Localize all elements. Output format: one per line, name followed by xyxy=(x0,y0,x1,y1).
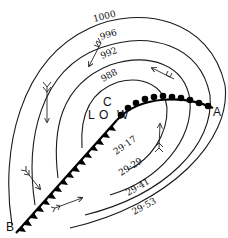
label-988: 988 xyxy=(99,67,119,84)
low-letter-O: O xyxy=(99,108,108,122)
label-29-41: 29·41 xyxy=(124,176,151,198)
point-A-label: A xyxy=(213,105,221,119)
warm-front xyxy=(117,93,213,120)
wind-arrow-right-upper xyxy=(152,68,174,79)
low-letter-W: W xyxy=(117,108,129,122)
isobar-1000 xyxy=(9,18,226,228)
wind-arrow-right-lower xyxy=(155,124,163,152)
point-B-label: B xyxy=(6,220,14,234)
label-29-53: 29·53 xyxy=(130,196,158,217)
cold-front xyxy=(16,120,117,233)
label-996: 996 xyxy=(99,27,119,42)
wind-arrow-lower-warm xyxy=(51,198,82,212)
label-1000: 1000 xyxy=(92,9,117,24)
low-letter-C: C xyxy=(103,95,112,109)
label-29-17: 29·17 xyxy=(111,134,138,157)
wind-arrow-left xyxy=(21,166,40,189)
isobar-988 xyxy=(82,80,167,170)
label-29-29: 29·29 xyxy=(117,155,144,177)
weather-map-diagram: 1000 996 992 988 29·17 29·29 29·41 29·53 xyxy=(0,0,228,238)
low-letter-L: L xyxy=(88,108,95,122)
